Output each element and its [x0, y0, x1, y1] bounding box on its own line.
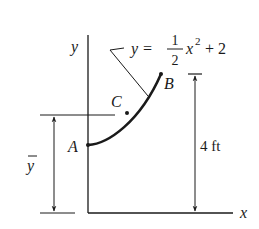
ybar-label: y	[25, 157, 35, 175]
svg-text:2: 2	[172, 53, 179, 68]
x-axis-label: x	[239, 204, 247, 221]
curve-equation: y = 1 2 x 2 + 2	[129, 33, 226, 68]
svg-text:x: x	[185, 40, 193, 57]
height-label: 4 ft	[200, 138, 221, 154]
svg-text:2: 2	[195, 35, 201, 47]
point-b-label: B	[164, 75, 174, 92]
centroid-dot	[125, 111, 129, 115]
svg-text:+ 2: + 2	[205, 40, 226, 57]
svg-text:y =: y =	[129, 40, 153, 58]
svg-text:1: 1	[172, 33, 179, 48]
point-a-dot	[86, 143, 90, 147]
y-axis-label: y	[69, 38, 79, 56]
diagram-canvas: y x A B C 4 ft y y = 1 2 x 2 + 2	[0, 0, 259, 229]
point-a-label: A	[67, 138, 78, 155]
point-b-dot	[159, 72, 163, 76]
parabolic-rod	[88, 74, 161, 145]
point-c-label: C	[111, 93, 122, 110]
